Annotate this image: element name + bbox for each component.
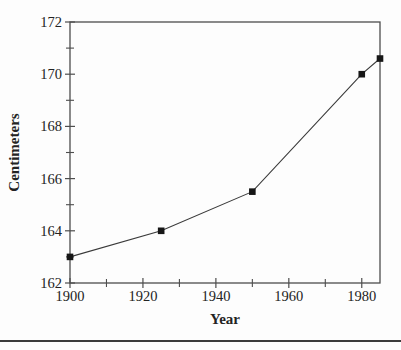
data-point-marker <box>249 188 256 195</box>
chart-canvas: 16216416616817017219001920194019601980Ce… <box>0 0 401 350</box>
page-bottom-rule <box>0 340 401 342</box>
data-point-marker <box>67 254 74 261</box>
data-point-marker <box>358 71 365 78</box>
x-tick-label: 1980 <box>347 288 376 304</box>
height-vs-year-chart: 16216416616817017219001920194019601980Ce… <box>0 0 401 350</box>
data-line <box>70 59 380 257</box>
x-tick-label: 1920 <box>128 288 157 304</box>
y-tick-label: 166 <box>40 171 62 187</box>
y-tick-label: 168 <box>40 118 62 134</box>
x-tick-label: 1960 <box>274 288 303 304</box>
data-point-marker <box>158 228 165 235</box>
x-axis-label: Year <box>210 311 240 327</box>
y-tick-label: 172 <box>40 14 62 30</box>
y-tick-label: 164 <box>40 223 63 239</box>
y-axis-label: Centimeters <box>6 113 22 191</box>
y-tick-label: 170 <box>40 66 62 82</box>
data-point-marker <box>377 55 384 62</box>
x-tick-label: 1940 <box>201 288 230 304</box>
x-tick-label: 1900 <box>56 288 85 304</box>
